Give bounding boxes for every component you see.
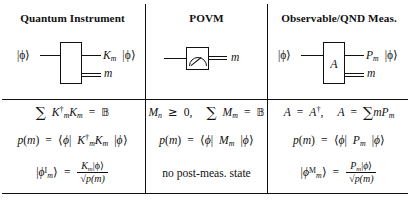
observable-box: A (323, 42, 345, 84)
column-title-povm: POVM (146, 12, 267, 24)
sum-symbol: ∑ (36, 104, 46, 120)
post-state-fraction: Km|ϕ⟩√p(m) (77, 160, 107, 185)
output-operator-subscript: m (111, 54, 117, 63)
input-wire (40, 55, 60, 56)
qnd-input-wire (301, 55, 323, 56)
equation-post-state-observable: |ϕMm⟩=Pm|ϕ⟩√p(m) (268, 161, 410, 186)
column-title-quantum-instrument: Quantum Instrument (0, 12, 145, 24)
output-ket: |ϕ⟩ (122, 49, 135, 61)
circuit-observable-qnd: |ϕ⟩ A Pm|ϕ⟩ m (268, 40, 410, 96)
observable-box-label: A (324, 57, 344, 72)
fraction-denominator: √p(m) (77, 172, 107, 184)
fraction-numerator: Km|ϕ⟩ (77, 160, 107, 172)
circuit-povm: m (146, 40, 267, 96)
post-state-subscript: m (47, 171, 53, 180)
identity-symbol: 𝔹 (101, 106, 109, 119)
equation-completeness-instrument: ∑K†mKm=𝔹 (0, 104, 145, 120)
qnd-fraction-numerator: Pm|ϕ⟩ (346, 160, 376, 172)
equation-probability-povm: p(m)=⟨ϕ|Mm|ϕ⟩ (146, 133, 267, 148)
column-povm: POVM m Mn≥0,∑Mm=𝔹 p(m)=⟨ϕ|Mm|ϕ⟩ no post-… (146, 0, 267, 209)
equation-observable-conditions: A=A†,A=∑mPm (268, 104, 410, 120)
output-operator-label: Km|ϕ⟩ (103, 48, 136, 63)
povm-meter-box (186, 47, 209, 70)
qnd-output-operator-label: Pm|ϕ⟩ (366, 48, 398, 63)
qnd-post-state-superscript: M (309, 166, 316, 175)
no-post-measurement-text: no post-meas. state (162, 167, 251, 180)
circuit-quantum-instrument: |ϕ⟩ Km|ϕ⟩ m (0, 40, 145, 96)
column-title-observable-qnd: Observable/QND Meas. (268, 12, 410, 24)
equation-povm-conditions: Mn≥0,∑Mm=𝔹 (146, 104, 267, 120)
classical-output-label: m (104, 67, 112, 79)
povm-classical-label: m (231, 51, 239, 63)
output-wire (82, 55, 101, 56)
qnd-classical-label: m (367, 67, 375, 79)
qnd-classical-wire (345, 73, 364, 77)
qnd-input-ket-label: |ϕ⟩ (278, 48, 291, 62)
qnd-fraction-denominator: √p(m) (346, 172, 376, 184)
column-observable-qnd: Observable/QND Meas. |ϕ⟩ A Pm|ϕ⟩ m A=A†,… (268, 0, 410, 209)
input-ket-label: |ϕ⟩ (17, 48, 30, 62)
equation-post-state-instrument: |ϕIm⟩=Km|ϕ⟩√p(m) (0, 161, 145, 186)
equation-post-state-povm: no post-meas. state (146, 167, 267, 180)
qnd-post-state-fraction: Pm|ϕ⟩√p(m) (346, 160, 376, 185)
equation-probability-instrument: p(m)=⟨ϕ|K†mKm|ϕ⟩ (0, 133, 145, 148)
figure-table: Quantum Instrument |ϕ⟩ Km|ϕ⟩ m ∑K†mKm=𝔹 … (0, 0, 410, 209)
column-quantum-instrument: Quantum Instrument |ϕ⟩ Km|ϕ⟩ m ∑K†mKm=𝔹 … (0, 0, 145, 209)
instrument-box (60, 42, 82, 84)
povm-input-wire (164, 58, 186, 59)
output-operator-symbol: K (103, 49, 111, 61)
qnd-output-wire (345, 55, 364, 56)
classical-output-wire (82, 73, 101, 77)
equation-probability-observable: p(m)=⟨ϕ|Pm|ϕ⟩ (268, 133, 410, 148)
povm-classical-wire (209, 56, 227, 60)
